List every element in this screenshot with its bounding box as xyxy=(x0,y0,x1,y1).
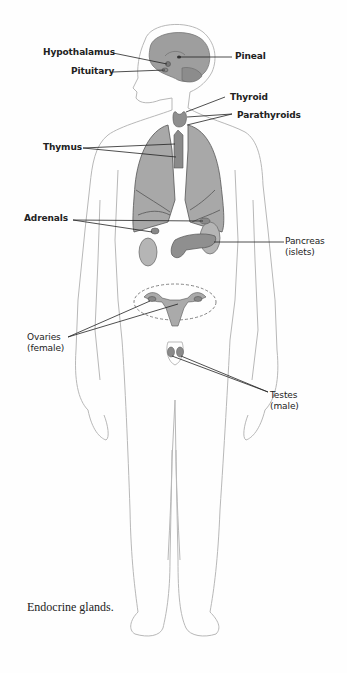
label-pancreas-name: Pancreas xyxy=(285,236,325,246)
label-hypothalamus: Hypothalamus xyxy=(43,47,115,58)
uterus xyxy=(144,293,206,326)
left-kidney xyxy=(139,238,157,266)
endocrine-diagram: Hypothalamus Pineal Pituitary Thyroid Pa… xyxy=(0,0,347,673)
label-ovaries: Ovaries (female) xyxy=(27,332,64,354)
left-adrenal xyxy=(151,228,159,234)
label-pancreas-sub: (islets) xyxy=(285,247,325,258)
label-pancreas: Pancreas (islets) xyxy=(285,236,325,258)
label-testes-sub: (male) xyxy=(270,401,299,412)
figure-caption: Endocrine glands. xyxy=(27,600,114,615)
label-testes: Testes (male) xyxy=(270,390,299,412)
label-thymus: Thymus xyxy=(43,142,82,153)
label-testes-name: Testes xyxy=(270,390,297,400)
label-thyroid: Thyroid xyxy=(230,92,268,103)
thyroid-gland xyxy=(173,112,187,127)
testes-glands xyxy=(167,342,184,365)
thymus-gland xyxy=(174,130,183,168)
label-ovaries-sub: (female) xyxy=(27,343,64,354)
label-ovaries-name: Ovaries xyxy=(27,332,61,342)
label-adrenals: Adrenals xyxy=(24,213,68,224)
leader-lines xyxy=(68,53,284,392)
label-pineal: Pineal xyxy=(235,51,266,62)
label-pituitary: Pituitary xyxy=(71,66,114,77)
label-parathyroids: Parathyroids xyxy=(237,110,301,121)
